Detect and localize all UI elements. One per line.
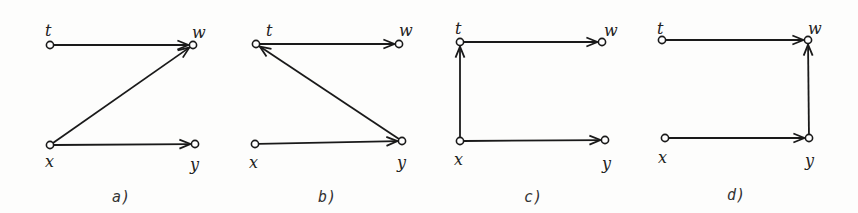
diagram-b: twxyb)	[249, 21, 413, 206]
vertex-label-y: y	[804, 151, 815, 170]
vertex-label-t: t	[455, 19, 462, 38]
vertex-t	[46, 41, 53, 48]
vertex-label-t: t	[266, 21, 273, 40]
vertex-x	[456, 137, 463, 144]
diagram-caption: d)	[727, 186, 745, 204]
edge-x-to-t	[456, 47, 465, 138]
diagrams-svg: twxya)twxyb)twxyc)twxyd)	[0, 0, 858, 213]
vertex-label-t: t	[657, 19, 664, 38]
edge-x-to-y	[669, 134, 805, 143]
edge-t-to-w	[54, 41, 189, 50]
vertex-y	[805, 134, 812, 141]
vertex-label-x: x	[249, 153, 258, 172]
vertex-label-w: w	[604, 21, 618, 40]
vertex-x	[46, 141, 53, 148]
diagram-caption: a)	[112, 188, 130, 206]
vertex-t	[456, 38, 463, 45]
edge-y-to-w	[804, 45, 813, 135]
diagram-c: twxyc)	[454, 19, 618, 206]
diagram-a: twxya)	[45, 21, 206, 206]
vertex-w	[395, 40, 402, 47]
vertex-w	[189, 41, 196, 48]
vertex-x	[251, 140, 258, 147]
edge-x-to-y	[464, 136, 601, 145]
diagram-caption: b)	[318, 188, 336, 206]
edge-x-to-w	[53, 48, 189, 143]
vertex-t	[252, 40, 259, 47]
vertex-label-y: y	[601, 154, 612, 173]
vertex-label-x: x	[45, 152, 54, 171]
diagram-d: twxyd)	[657, 19, 822, 204]
vertex-x	[661, 134, 668, 141]
edge-x-to-y	[54, 140, 191, 149]
vertex-label-y: y	[396, 153, 407, 172]
diagram-caption: c)	[524, 188, 542, 206]
vertex-y	[398, 137, 405, 144]
vertex-label-w: w	[399, 21, 413, 40]
vertex-label-w: w	[808, 19, 822, 38]
vertex-y	[601, 136, 608, 143]
edge-t-to-w	[464, 38, 598, 47]
vertex-label-x: x	[658, 148, 667, 167]
vertex-label-t: t	[45, 21, 52, 40]
vertex-label-w: w	[192, 23, 206, 42]
graph-diagrams-figure: twxya)twxyb)twxyc)twxyd)	[0, 0, 858, 213]
edge-t-to-w	[666, 36, 804, 45]
edge-y-to-t	[260, 47, 399, 139]
vertex-label-y: y	[189, 155, 200, 174]
edge-t-to-w	[260, 40, 395, 49]
edge-x-to-y	[259, 137, 398, 146]
vertex-label-x: x	[454, 150, 463, 169]
vertex-y	[191, 140, 198, 147]
